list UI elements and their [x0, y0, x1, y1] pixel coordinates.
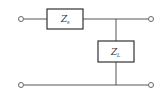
output-bottom-terminal-icon [149, 83, 154, 88]
series-impedance-subscript: s [67, 19, 70, 25]
shunt-impedance-box: Z L [98, 41, 134, 62]
series-impedance-box: Z s [47, 9, 83, 29]
input-top-terminal-icon [19, 17, 24, 22]
input-bottom-terminal-icon [19, 83, 24, 88]
shunt-impedance-subscript: L [116, 52, 121, 58]
output-top-terminal-icon [149, 17, 154, 22]
circuit-diagram: Z s Z L [0, 0, 164, 95]
